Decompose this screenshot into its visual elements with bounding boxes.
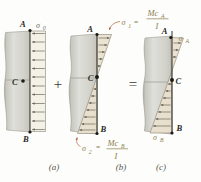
uniform-stress-block (30, 31, 46, 132)
caption-c: (c) (156, 162, 166, 172)
point-a-label: A (86, 24, 93, 34)
sigma1-symbol: σ (122, 18, 127, 27)
sigma1-subscript: 1 (128, 23, 131, 29)
point-a-dot (28, 29, 31, 32)
sigma2-leader-arrow (77, 138, 81, 147)
point-b-label: B (100, 124, 107, 134)
sigma0-symbol: σ (36, 21, 41, 30)
point-c-label: C (176, 76, 182, 86)
sigma1-equation: σ 1 = Mc A I (109, 8, 168, 31)
sigma1-leader-arrow (109, 22, 120, 31)
centroid-c-dot (21, 79, 25, 83)
figure-canvas: A σ 0 C B (a) + A C (0, 0, 201, 182)
sigma2-subscript: 2 (89, 149, 92, 155)
sigma2-symbol: σ (82, 144, 87, 153)
point-c-label: C (12, 77, 18, 87)
superposition-diagram: A σ 0 C B (a) + A C (0, 0, 201, 182)
point-b-dot (28, 130, 31, 133)
centroid-c-dot (95, 75, 99, 79)
caption-b: (b) (116, 162, 127, 172)
point-a-label: A (161, 26, 168, 36)
plus-operator: + (54, 76, 62, 92)
sigma2-denominator: I (114, 151, 119, 161)
sigma1-numerator-subscript: A (160, 13, 165, 19)
sigma-b-symbol: σ (153, 133, 158, 142)
sigma2-equation: σ 2 = Mc B I (77, 138, 128, 161)
panel-c: A σ A C B σ B (c) (143, 26, 189, 172)
sigma2-equals: = (96, 143, 100, 152)
centroid-c-dot (170, 78, 174, 82)
sigma2-numerator-subscript: B (121, 143, 125, 149)
sigma-a-subscript: A (185, 38, 190, 44)
sigma2-numerator: Mc (107, 138, 119, 148)
sigma-b-subscript: B (160, 137, 164, 143)
point-b-label: B (22, 134, 29, 144)
point-b-dot (170, 131, 173, 134)
point-a-dot (169, 36, 172, 39)
caption-a: (a) (49, 162, 60, 172)
sigma1-equals: = (134, 18, 138, 27)
point-a-dot (95, 33, 98, 36)
sigma0-subscript: 0 (43, 25, 46, 31)
point-b-label: B (176, 123, 183, 133)
panel-a: A σ 0 C B (a) (4, 19, 59, 172)
equals-operator: = (129, 76, 137, 92)
sigma1-numerator: Mc (147, 8, 159, 18)
point-c-label: C (88, 73, 94, 83)
point-a-label: A (19, 19, 26, 29)
point-b-dot (95, 132, 98, 135)
sigma1-denominator: I (155, 21, 160, 31)
